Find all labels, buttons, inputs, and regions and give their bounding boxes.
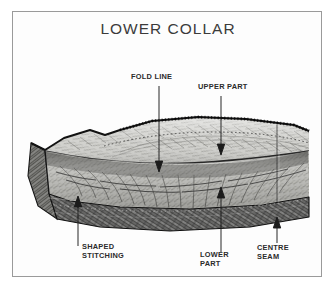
label-fold-line: FOLD LINE — [131, 72, 172, 81]
label-upper-part: UPPER PART — [198, 82, 248, 91]
label-centre-seam: CENTRE SEAM — [257, 243, 289, 261]
figure-page: LOWER COLLAR — [0, 0, 336, 294]
label-lower-part: LOWER PART — [200, 250, 229, 268]
label-shaped-stitching: SHAPED STITCHING — [82, 242, 124, 260]
